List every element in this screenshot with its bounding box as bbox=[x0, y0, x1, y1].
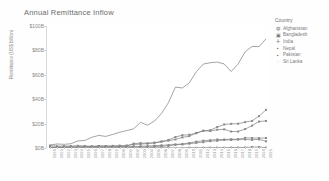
x-axis-tick bbox=[148, 147, 149, 149]
legend-item-bangladesh[interactable]: ▣Bangladesh bbox=[275, 32, 327, 39]
x-axis-tick-label: 2005 bbox=[156, 149, 161, 158]
legend-item-pakistan[interactable]: ▪Pakistan bbox=[275, 51, 327, 58]
x-axis-tick bbox=[92, 147, 93, 149]
data-point bbox=[167, 144, 169, 146]
x-axis-tick-label: 1991 bbox=[59, 149, 64, 158]
data-point bbox=[181, 143, 183, 145]
legend-marker-icon: ◌ bbox=[275, 58, 281, 64]
x-axis-tick bbox=[64, 147, 65, 149]
data-point bbox=[160, 141, 162, 143]
x-axis-tick bbox=[50, 147, 51, 149]
legend-items: ◍Afghanistan▣Bangladesh✛India▪Nepal▪Paki… bbox=[275, 25, 327, 65]
x-axis-tick bbox=[85, 147, 86, 149]
data-point bbox=[174, 143, 176, 145]
x-axis-tick bbox=[266, 147, 267, 149]
data-point bbox=[223, 139, 225, 141]
y-axis-tick bbox=[43, 124, 46, 125]
data-point bbox=[209, 139, 211, 141]
y-axis-tick-label: $100B bbox=[30, 23, 44, 29]
series-line-india bbox=[50, 39, 266, 145]
x-axis-tick-label: 2017 bbox=[240, 149, 245, 158]
x-axis-tick-label: 2004 bbox=[149, 149, 154, 158]
data-point bbox=[265, 109, 267, 111]
x-axis-tick bbox=[259, 147, 260, 149]
x-axis-tick-label: 1994 bbox=[79, 149, 84, 158]
legend-title: Country bbox=[275, 17, 327, 23]
x-axis-tick-label: 2010 bbox=[191, 149, 196, 158]
x-axis-tick bbox=[203, 147, 204, 149]
data-point bbox=[237, 131, 239, 133]
data-point bbox=[237, 123, 239, 125]
x-axis-tick bbox=[224, 147, 225, 149]
x-axis-tick-label: 2011 bbox=[198, 149, 203, 158]
legend: Country ◍Afghanistan▣Bangladesh✛India▪Ne… bbox=[275, 17, 327, 65]
x-axis-tick bbox=[161, 147, 162, 149]
x-axis-tick bbox=[71, 147, 72, 149]
x-axis-tick bbox=[175, 147, 176, 149]
data-point bbox=[237, 138, 239, 140]
data-point bbox=[188, 135, 190, 137]
x-axis-tick bbox=[217, 147, 218, 149]
data-point bbox=[209, 129, 211, 131]
legend-marker-icon: ✛ bbox=[275, 38, 281, 44]
series-line-pakistan bbox=[50, 110, 266, 147]
data-point bbox=[195, 141, 197, 143]
chart-title: Annual Remittance Inflow bbox=[24, 8, 114, 17]
legend-item-label: India bbox=[283, 39, 293, 44]
legend-item-india[interactable]: ✛India bbox=[275, 38, 327, 45]
data-point bbox=[181, 136, 183, 138]
plot-area bbox=[47, 26, 269, 148]
data-point bbox=[223, 128, 225, 130]
data-point bbox=[147, 142, 149, 144]
data-point bbox=[195, 132, 197, 134]
data-point bbox=[133, 143, 135, 145]
data-point bbox=[230, 131, 232, 133]
data-point bbox=[251, 137, 253, 139]
data-point bbox=[216, 129, 218, 131]
y-axis-labels: $0B$20B$40B$60B$80B$100B bbox=[0, 26, 44, 148]
data-point bbox=[230, 123, 232, 125]
legend-item-afghanistan[interactable]: ◍Afghanistan bbox=[275, 25, 327, 32]
y-axis-tick bbox=[43, 75, 46, 76]
y-axis-tick bbox=[43, 99, 46, 100]
x-axis-tick bbox=[127, 147, 128, 149]
data-point bbox=[230, 138, 232, 140]
x-axis-tick-label: 2002 bbox=[135, 149, 140, 158]
data-point bbox=[202, 140, 204, 142]
data-point bbox=[216, 126, 218, 128]
x-axis-tick bbox=[238, 147, 239, 149]
legend-marker-icon: ◍ bbox=[275, 25, 281, 31]
x-axis-tick-label: 2000 bbox=[121, 149, 126, 158]
x-axis-tick-label: 1996 bbox=[93, 149, 98, 158]
y-axis-tick bbox=[43, 148, 46, 149]
data-point bbox=[244, 138, 246, 140]
x-axis-tick bbox=[196, 147, 197, 149]
x-axis-tick-label: 2013 bbox=[212, 149, 217, 158]
x-axis-tick-label: 2006 bbox=[163, 149, 168, 158]
x-axis-tick-label: 2008 bbox=[177, 149, 182, 158]
x-axis-tick bbox=[210, 147, 211, 149]
data-point bbox=[258, 115, 260, 117]
x-axis-tick-label: 1997 bbox=[100, 149, 105, 158]
legend-marker-icon: ▣ bbox=[275, 32, 281, 38]
legend-item-sri-lanka[interactable]: ◌Sri Lanka bbox=[275, 58, 327, 65]
data-point bbox=[223, 123, 225, 125]
x-axis-tick-label: 1992 bbox=[66, 149, 71, 158]
x-axis-tick-label: 1998 bbox=[107, 149, 112, 158]
data-point bbox=[154, 142, 156, 144]
data-point bbox=[188, 142, 190, 144]
legend-item-label: Pakistan bbox=[283, 52, 301, 57]
x-axis-tick bbox=[57, 147, 58, 149]
data-point bbox=[140, 142, 142, 144]
legend-item-nepal[interactable]: ▪Nepal bbox=[275, 45, 327, 52]
x-axis-tick-label: 2001 bbox=[128, 149, 133, 158]
chart-sheet: Annual Remittance Inflow Remittance (US$… bbox=[0, 0, 329, 181]
x-axis-tick bbox=[113, 147, 114, 149]
x-axis-tick bbox=[245, 147, 246, 149]
series-lines bbox=[47, 26, 269, 148]
x-axis-tick-label: 2015 bbox=[226, 149, 231, 158]
x-axis-tick bbox=[134, 147, 135, 149]
x-axis-tick-label: 2014 bbox=[219, 149, 224, 158]
data-point bbox=[258, 121, 260, 123]
legend-marker-icon: ▪ bbox=[275, 52, 281, 58]
